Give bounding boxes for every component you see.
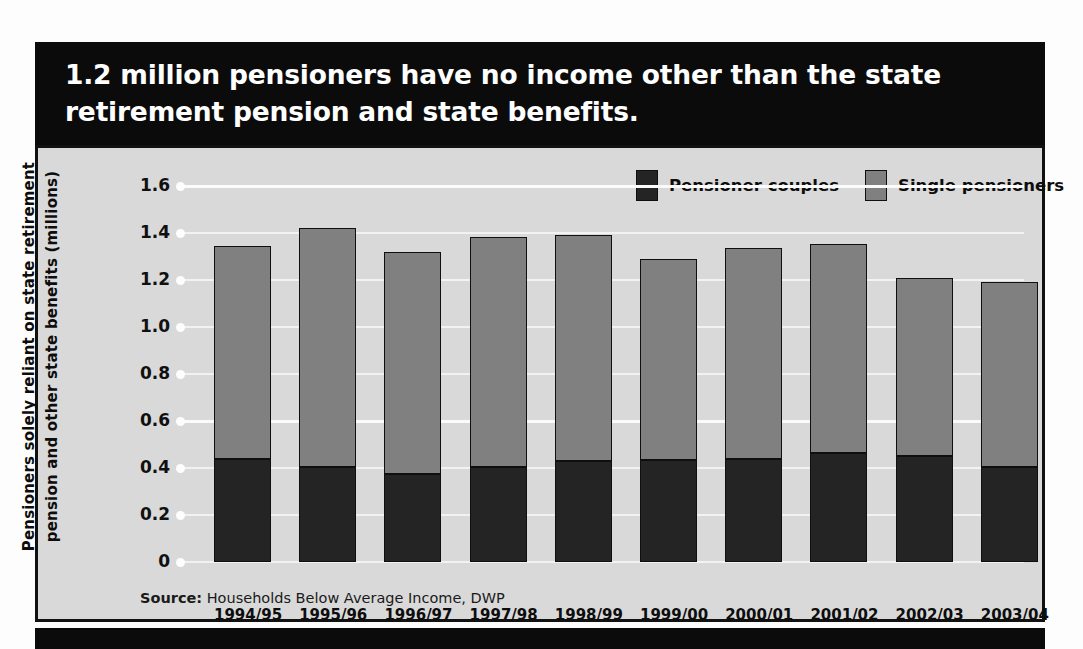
bar-column[interactable] — [214, 246, 271, 562]
bar-column[interactable] — [299, 228, 356, 562]
source-text: Households Below Average Income, DWP — [202, 590, 505, 606]
y-axis-tick-label: 0 — [100, 551, 170, 571]
bar-segment-single-pensioners[interactable] — [555, 235, 612, 461]
bar-segment-pensioner-couples[interactable] — [981, 467, 1038, 562]
bar-segment-single-pensioners[interactable] — [299, 228, 356, 467]
y-axis-tick-label: 0.8 — [100, 363, 170, 383]
x-axis-tick-label: 2002/03 — [896, 606, 953, 624]
bar-column[interactable] — [810, 244, 867, 562]
bars-layer — [176, 186, 1024, 562]
source-note: Source: Households Below Average Income,… — [140, 590, 505, 606]
x-axis-tick-label: 2000/01 — [725, 606, 782, 624]
bar-segment-pensioner-couples[interactable] — [470, 467, 527, 562]
x-axis-tick-label: 2001/02 — [810, 606, 867, 624]
title-banner: 1.2 million pensioners have no income ot… — [35, 42, 1045, 145]
bar-column[interactable] — [555, 235, 612, 562]
bar-segment-single-pensioners[interactable] — [725, 248, 782, 458]
x-axis-tick-label: 2003/04 — [981, 606, 1038, 624]
x-axis-tick-label: 1997/98 — [470, 606, 527, 624]
bar-column[interactable] — [470, 237, 527, 562]
bar-column[interactable] — [896, 278, 953, 562]
bottom-accent-bar — [35, 628, 1045, 649]
bar-segment-pensioner-couples[interactable] — [725, 459, 782, 562]
x-axis-tick-label: 1994/95 — [214, 606, 271, 624]
bar-segment-single-pensioners[interactable] — [810, 244, 867, 453]
plot-area: 1.61.41.21.00.80.60.40.20 1994/951995/96… — [176, 186, 1024, 562]
y-axis-tick-label: 1.6 — [100, 175, 170, 195]
bar-column[interactable] — [981, 282, 1038, 562]
bar-segment-pensioner-couples[interactable] — [555, 461, 612, 562]
bar-segment-pensioner-couples[interactable] — [810, 453, 867, 562]
y-axis-tick-label: 1.0 — [100, 316, 170, 336]
y-axis-title-line-1: Pensioners solely reliant on state retir… — [18, 162, 41, 551]
y-axis-tick-label: 0.4 — [100, 457, 170, 477]
chart-figure: Pensioners solely reliant on state retir… — [35, 145, 1045, 622]
chart-page: 1.2 million pensioners have no income ot… — [0, 0, 1083, 649]
y-axis-tick-label: 0.2 — [100, 504, 170, 524]
x-axis-tick-label: 1999/00 — [640, 606, 697, 624]
y-axis-title: Pensioners solely reliant on state retir… — [11, 159, 71, 554]
bar-segment-single-pensioners[interactable] — [981, 282, 1038, 466]
x-axis-tick-label: 1998/99 — [555, 606, 612, 624]
bar-segment-pensioner-couples[interactable] — [640, 460, 697, 562]
bar-segment-single-pensioners[interactable] — [470, 237, 527, 467]
x-axis-tick-label: 1995/96 — [299, 606, 356, 624]
y-axis-tick-label: 1.4 — [100, 222, 170, 242]
y-axis-tick-label: 0.6 — [100, 410, 170, 430]
bar-segment-single-pensioners[interactable] — [384, 252, 441, 474]
bar-column[interactable] — [384, 252, 441, 562]
bar-segment-single-pensioners[interactable] — [214, 246, 271, 459]
bar-segment-pensioner-couples[interactable] — [384, 474, 441, 562]
bar-segment-single-pensioners[interactable] — [640, 259, 697, 460]
bar-column[interactable] — [640, 259, 697, 562]
bar-segment-single-pensioners[interactable] — [896, 278, 953, 457]
y-axis-tick-label: 1.2 — [100, 269, 170, 289]
bar-segment-pensioner-couples[interactable] — [214, 459, 271, 562]
bar-column[interactable] — [725, 248, 782, 562]
source-label: Source: — [140, 590, 202, 606]
bar-segment-pensioner-couples[interactable] — [299, 467, 356, 562]
page-title: 1.2 million pensioners have no income ot… — [65, 56, 1019, 130]
x-axis-tick-label: 1996/97 — [384, 606, 441, 624]
y-axis-title-line-2: pension and other state benefits (millio… — [41, 171, 64, 543]
bar-segment-pensioner-couples[interactable] — [896, 456, 953, 562]
